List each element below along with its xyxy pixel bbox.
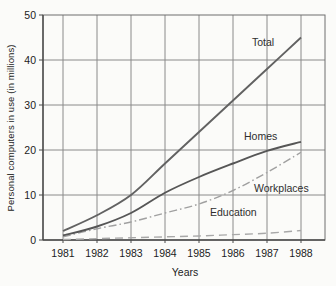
y-tick-label: 0	[30, 234, 36, 246]
chart-figure: 0102030405019811982198319841985198619871…	[0, 0, 336, 286]
x-axis-title: Years	[150, 266, 220, 278]
plot-frame	[43, 15, 325, 240]
x-tick-label: 1987	[255, 247, 279, 259]
y-axis-title: Personal computers in use (in millions)	[5, 13, 17, 243]
series-label-homes: Homes	[244, 130, 277, 142]
series-label-total: Total	[252, 36, 274, 48]
chart-canvas: 0102030405019811982198319841985198619871…	[0, 0, 336, 286]
x-tick-label: 1984	[153, 247, 177, 259]
y-tick-label: 50	[24, 9, 36, 21]
x-tick-label: 1983	[119, 247, 143, 259]
series-line-education	[63, 231, 301, 240]
y-tick-label: 10	[24, 189, 36, 201]
y-tick-label: 30	[24, 99, 36, 111]
x-tick-label: 1988	[289, 247, 313, 259]
x-tick-label: 1982	[85, 247, 109, 259]
x-tick-label: 1985	[187, 247, 211, 259]
series-label-workplaces: Workplaces	[254, 182, 309, 194]
y-tick-label: 40	[24, 54, 36, 66]
series-label-education: Education	[210, 206, 257, 218]
y-tick-label: 20	[24, 144, 36, 156]
x-tick-label: 1981	[51, 247, 75, 259]
x-tick-label: 1986	[221, 247, 245, 259]
